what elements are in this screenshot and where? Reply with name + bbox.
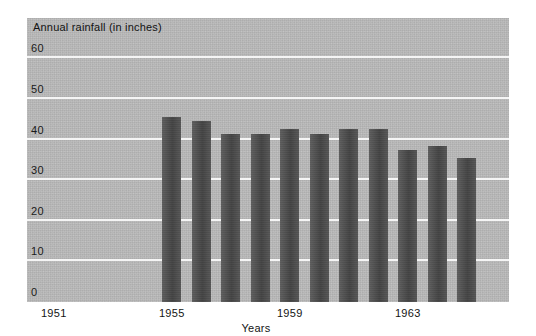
rainfall-bar-chart: Annual rainfall (in inches) 010203040506…: [0, 0, 536, 336]
bar-1959: [280, 129, 299, 302]
bar-1963: [398, 150, 417, 302]
y-tick-label-40: 40: [31, 124, 44, 136]
y-tick-label-60: 60: [31, 42, 44, 54]
y-tick-label-10: 10: [31, 245, 44, 257]
bar-1955: [162, 117, 181, 302]
bar-1960: [310, 134, 329, 302]
plot-area: Annual rainfall (in inches) 010203040506…: [27, 18, 509, 302]
bar-1956: [192, 121, 211, 302]
x-tick-label-1955: 1955: [159, 307, 185, 319]
y-tick-label-20: 20: [31, 205, 44, 217]
bar-1962: [369, 129, 388, 302]
bar-1958: [251, 134, 270, 302]
y-tick-label-50: 50: [31, 83, 44, 95]
x-axis-title: Years: [241, 322, 270, 334]
x-tick-label-1951: 1951: [41, 307, 67, 319]
x-tick-label-1963: 1963: [395, 307, 421, 319]
y-tick-label-30: 30: [31, 164, 44, 176]
x-tick-label-1959: 1959: [277, 307, 303, 319]
gridline-50: [27, 97, 509, 99]
bar-1964: [428, 146, 447, 302]
y-tick-label-0: 0: [31, 286, 37, 298]
chart-title: Annual rainfall (in inches): [33, 21, 162, 33]
bar-1957: [221, 134, 240, 302]
bar-1965: [457, 158, 476, 302]
bar-1961: [339, 129, 358, 302]
gridline-60: [27, 56, 509, 58]
